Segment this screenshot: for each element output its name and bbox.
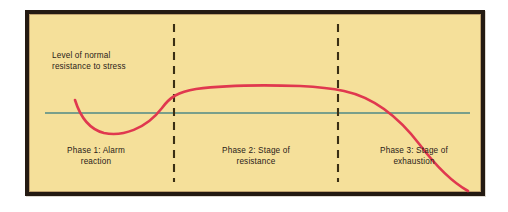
baseline-caption: Level of normal resistance to stress	[52, 51, 126, 72]
phase-3-caption: Phase 3: Stage of exhaustion	[358, 146, 470, 167]
chart-plot	[0, 0, 508, 212]
phase-2-caption: Phase 2: Stage of resistance	[198, 146, 314, 167]
resistance-curve	[75, 85, 468, 191]
gas-curve-figure: Level of normal resistance to stress Pha…	[0, 0, 508, 212]
phase-1-caption: Phase 1: Alarm reaction	[44, 146, 148, 167]
